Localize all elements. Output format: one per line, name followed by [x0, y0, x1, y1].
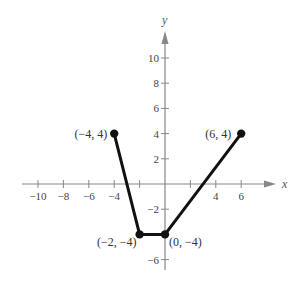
x-tick-label: −6	[83, 190, 95, 202]
x-tick-label: −10	[29, 190, 47, 202]
point-labels: (−4, 4)(6, 4)(−2, −4)(0, −4)	[74, 127, 231, 250]
y-tick-label: 10	[148, 52, 160, 64]
y-tick-label: 2	[154, 153, 160, 165]
point-label: (−4, 4)	[74, 127, 107, 141]
y-tick-label: −6	[147, 254, 159, 266]
y-tick-label: −2	[147, 203, 159, 215]
data-point	[135, 230, 143, 238]
point-label: (0, −4)	[169, 235, 202, 249]
x-tick-label: 6	[238, 190, 244, 202]
x-tick-label: −4	[108, 190, 120, 202]
x-tick-label: 4	[213, 190, 219, 202]
y-tick-label: 4	[154, 128, 160, 140]
x-axis-arrow-icon	[264, 181, 276, 188]
x-tick-label: −8	[58, 190, 70, 202]
y-tick-label: 8	[154, 77, 160, 89]
point-label: (6, 4)	[205, 127, 231, 141]
data-point	[161, 230, 169, 238]
data-point	[110, 129, 118, 137]
x-axis-label: x	[281, 177, 288, 191]
point-label: (−2, −4)	[97, 235, 137, 249]
y-axis-arrow-icon	[162, 31, 169, 44]
data-point	[237, 129, 245, 137]
chart-canvas: xy −10−8−6−446−6−2246810 (−4, 4)(6, 4)(−…	[0, 0, 304, 286]
y-tick-label: 6	[154, 102, 160, 114]
function-graph: xy −10−8−6−446−6−2246810 (−4, 4)(6, 4)(−…	[0, 0, 304, 286]
y-axis-label: y	[161, 13, 168, 27]
